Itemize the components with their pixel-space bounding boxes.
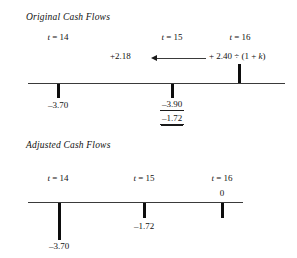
original-timeline-axis — [28, 83, 285, 84]
time-variable: t — [229, 32, 232, 42]
original-period-label-t15: t = 15 — [142, 32, 202, 42]
discounted-value-label: +2.18 — [110, 51, 131, 61]
time-value: = 16 — [234, 32, 250, 42]
discount-expression-prefix: + 2.40 — [209, 51, 234, 61]
time-variable: t — [211, 173, 214, 183]
adjusted-period-label-t16: t = 16 — [192, 173, 252, 183]
time-variable: t — [161, 32, 164, 42]
adjusted-tick-down-t16 — [221, 203, 224, 218]
original-period-label-t14: t = 14 — [28, 32, 88, 42]
time-variable: t — [47, 173, 50, 183]
original-cashflow-t15: –3.90 — [160, 100, 184, 111]
time-variable: t — [47, 32, 50, 42]
original-tick-down-t15 — [171, 84, 174, 98]
time-value: = 14 — [52, 173, 68, 183]
cash-flow-diagram: Original Cash Flows t = 14 t = 15 t = 16… — [0, 0, 297, 258]
time-value: = 14 — [52, 32, 68, 42]
original-tick-up-t16 — [238, 64, 241, 83]
discount-arrow-shaft — [157, 58, 206, 59]
adjusted-cashflow-t16: 0 — [192, 188, 252, 198]
adjusted-cashflow-t15: –1.72 — [114, 221, 174, 231]
original-section-title: Original Cash Flows — [26, 12, 110, 22]
discount-expression-suffix: (1 + — [239, 51, 258, 61]
original-cashflow-t14: –3.70 — [28, 100, 88, 110]
discount-expression: + 2.40 ÷ (1 + k) — [209, 51, 266, 61]
original-cashflow-net-t15: –1.72 — [160, 113, 184, 125]
adjusted-period-label-t14: t = 14 — [28, 173, 88, 183]
adjusted-section-title: Adjusted Cash Flows — [26, 140, 111, 150]
original-cashflow-sum-t15: –3.90 –1.72 — [143, 100, 201, 125]
time-value: = 16 — [216, 173, 232, 183]
original-period-label-t16: t = 16 — [210, 32, 270, 42]
discount-expression-close: ) — [263, 51, 266, 61]
adjusted-cashflow-t14: –3.70 — [29, 241, 89, 251]
time-value: = 15 — [138, 173, 154, 183]
adjusted-period-label-t15: t = 15 — [114, 173, 174, 183]
original-tick-down-t14 — [57, 84, 60, 98]
adjusted-tick-down-t15 — [143, 203, 146, 218]
time-variable: t — [133, 173, 136, 183]
adjusted-tick-down-t14 — [58, 203, 61, 240]
time-value: = 15 — [166, 32, 182, 42]
